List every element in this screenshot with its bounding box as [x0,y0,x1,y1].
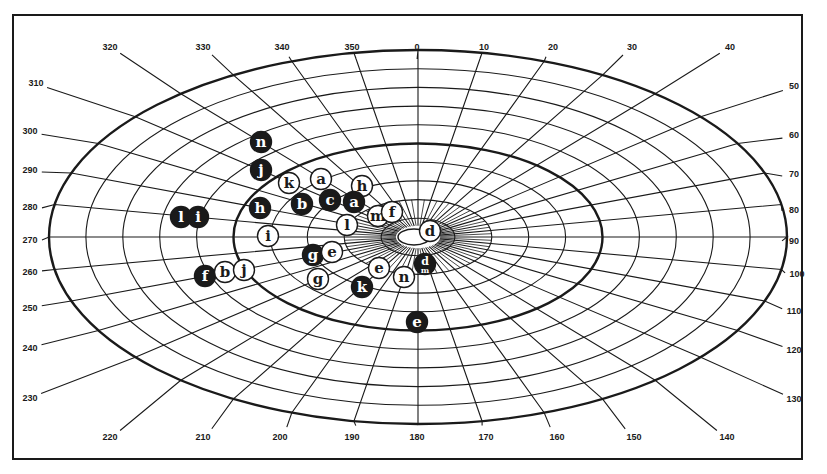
marker-letter: a [349,193,359,211]
angle-label-340: 340 [274,42,289,52]
marker-n-filled: n [251,132,272,153]
marker-b-filled: b [292,194,313,215]
spoke-240 [42,243,399,345]
marker-f-open: f [382,202,403,223]
marker-letter: n [399,268,410,286]
spoke-270 [42,237,396,240]
angle-label-90: 90 [789,236,799,246]
marker-letter: j [256,161,263,179]
marker-letter: e [327,243,337,261]
marker-b-open: b [215,262,236,283]
angle-label-50: 50 [789,81,799,91]
marker-letter: g [313,270,324,288]
spoke-10 [422,53,482,226]
marker-subletter: m [421,265,430,275]
marker-e-filled: e [407,312,428,333]
marker-j-open: j [234,260,255,281]
angle-label-60: 60 [789,130,799,140]
angle-label-30: 30 [627,42,637,52]
elliptical-polar-plot: 0102030405060708090100110120130140150160… [0,0,827,474]
angle-label-150: 150 [626,432,641,442]
angle-label-10: 10 [479,42,489,52]
angle-label-190: 190 [344,432,359,442]
marker-g-open: g [308,269,329,290]
marker-letter: d [425,222,436,240]
marker-letter: b [297,195,308,213]
angle-label-270: 270 [22,235,37,245]
marker-letter: e [374,259,384,277]
marker-letter: b [220,263,231,281]
angle-label-180: 180 [409,432,424,442]
angle-label-250: 250 [22,303,37,313]
marker-i-filled: i [188,207,209,228]
marker-a-filled: a [344,192,365,213]
angle-label-100: 100 [789,269,804,279]
angle-label-120: 120 [786,345,801,355]
angle-label-20: 20 [548,42,558,52]
angle-label-330: 330 [195,42,210,52]
marker-letter: i [265,227,271,245]
spoke-200 [287,248,411,428]
marker-l-open: l [337,215,358,236]
marker-c-filled: c [320,190,341,211]
marker-letter: c [325,191,334,209]
marker-letter: e [412,313,422,331]
marker-letter: l [344,216,350,234]
marker-n-open: n [394,267,415,288]
angle-label-160: 160 [549,432,564,442]
angle-label-140: 140 [719,432,734,442]
angle-label-80: 80 [789,205,799,215]
angle-label-260: 260 [22,267,37,277]
marker-letter: g [308,246,319,264]
angle-label-70: 70 [789,169,799,179]
angle-label-220: 220 [102,432,117,442]
angle-label-110: 110 [787,306,802,316]
marker-letter: l [178,208,184,226]
angle-label-210: 210 [195,432,210,442]
marker-d-filled: dm [415,254,436,276]
angle-label-350: 350 [344,42,359,52]
angle-label-320: 320 [102,42,117,52]
marker-d-open: d [420,221,441,242]
angle-label-200: 200 [272,432,287,442]
angle-label-230: 230 [22,393,37,403]
angle-label-280: 280 [22,202,37,212]
marker-g-filled: g [303,245,324,266]
marker-f-filled: f [195,266,216,287]
spoke-20 [426,57,546,227]
spoke-40 [432,53,720,228]
angle-label-130: 130 [786,394,801,404]
marker-letter: n [256,133,267,151]
spoke-170 [422,248,482,426]
spoke-80 [440,205,782,236]
marker-letter: j [239,261,246,279]
spoke-60 [437,138,782,231]
angle-label-40: 40 [725,42,735,52]
marker-letter: k [357,278,368,296]
angle-label-290: 290 [22,165,37,175]
marker-letter: k [284,174,295,192]
marker-letter: i [195,208,201,226]
diagram-canvas: 0102030405060708090100110120130140150160… [0,0,827,474]
marker-k-open: k [279,173,300,194]
spoke-130 [435,244,783,394]
marker-e-open: e [322,242,343,263]
angle-label-170: 170 [478,432,493,442]
marker-h-filled: h [250,198,271,219]
marker-k-filled: k [352,277,373,298]
marker-letter: h [255,199,266,217]
spoke-110 [439,241,782,309]
marker-letter: a [316,170,326,188]
marker-j-filled: j [251,160,272,181]
angle-label-0: 0 [414,42,419,52]
angle-label-300: 300 [22,126,37,136]
angle-label-240: 240 [22,343,37,353]
marker-a-open: a [311,169,332,190]
marker-i-open: i [258,226,279,247]
angle-label-310: 310 [28,78,43,88]
marker-e-open: e [369,258,390,279]
